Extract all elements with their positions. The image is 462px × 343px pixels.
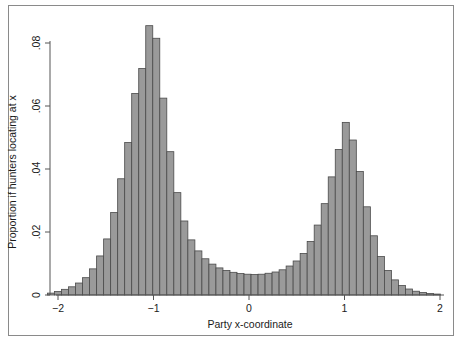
histogram-bar: [265, 273, 272, 295]
histogram-bar: [76, 283, 83, 295]
y-tick-label: .08: [30, 33, 42, 53]
histogram-bar: [293, 261, 300, 295]
histogram-bar: [335, 149, 342, 295]
histogram-bar: [286, 266, 293, 295]
histogram-bar: [153, 38, 160, 295]
histogram-bar: [90, 269, 97, 295]
x-tick-label: −2: [48, 302, 68, 314]
y-tick-label: .06: [30, 96, 42, 116]
x-tick-label: 0: [239, 302, 259, 314]
histogram-bar: [230, 272, 237, 295]
histogram-bar: [167, 152, 174, 295]
histogram-bar: [258, 274, 265, 295]
histogram-bar: [377, 257, 384, 295]
x-tick-label: −1: [144, 302, 164, 314]
histogram-bar: [384, 270, 391, 295]
histogram-bar: [223, 270, 230, 295]
histogram-bar: [62, 289, 69, 295]
histogram-bar: [279, 270, 286, 295]
histogram-bar: [349, 140, 356, 295]
histogram-bar: [321, 204, 328, 295]
y-tick-label: .02: [30, 222, 42, 242]
histogram-bar: [363, 207, 370, 295]
histogram-bar: [328, 177, 335, 295]
histogram-bar: [307, 241, 314, 295]
histogram-bar: [188, 240, 195, 295]
histogram-bar: [69, 287, 76, 295]
histogram-bar: [139, 69, 146, 295]
histogram-bar: [398, 286, 405, 295]
histogram-bar: [272, 272, 279, 295]
histogram-bar: [405, 289, 412, 295]
histogram-plot: [0, 0, 462, 343]
histogram-bar: [209, 264, 216, 295]
histogram-bar: [370, 236, 377, 295]
x-tick-label: 1: [335, 302, 355, 314]
histogram-bar: [314, 225, 321, 295]
histogram-bar: [342, 122, 349, 295]
y-tick-label: 0: [30, 285, 42, 305]
histogram-bar: [174, 193, 181, 295]
histogram-bar: [181, 221, 188, 295]
histogram-bar: [146, 26, 153, 295]
histogram-bar: [391, 280, 398, 295]
x-tick-label: 2: [430, 302, 450, 314]
histogram-bar: [300, 253, 307, 295]
histogram-bar: [160, 98, 167, 295]
bar-series: [47, 26, 440, 295]
histogram-bar: [251, 275, 258, 295]
histogram-bar: [83, 278, 90, 295]
histogram-bar: [104, 239, 111, 295]
histogram-bar: [202, 259, 209, 295]
y-tick-label: .04: [30, 159, 42, 179]
histogram-bar: [54, 292, 61, 295]
histogram-bar: [111, 212, 118, 295]
histogram-bar: [356, 172, 363, 295]
histogram-bar: [244, 274, 251, 295]
histogram-bar: [132, 93, 139, 295]
histogram-bar: [118, 179, 125, 295]
histogram-bar: [216, 268, 223, 295]
histogram-bar: [125, 143, 132, 295]
histogram-bar: [97, 256, 104, 295]
histogram-bar: [237, 274, 244, 295]
histogram-bar: [195, 251, 202, 295]
histogram-bar: [412, 291, 419, 295]
